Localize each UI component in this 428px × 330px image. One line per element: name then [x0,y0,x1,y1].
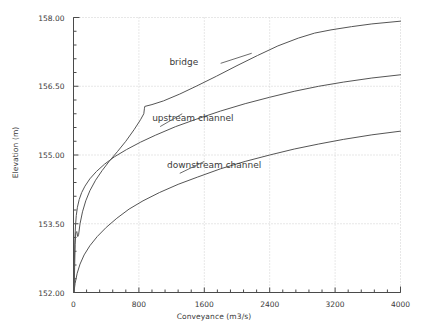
y-axis-title: Elevation (m) [11,108,20,198]
x-tick-label: 4000 [391,300,410,309]
data-series [74,21,401,291]
x-tick-label: 800 [132,300,147,309]
axis-lines [74,18,401,293]
x-tick-label: 0 [71,300,76,309]
grid-lines [74,18,401,293]
series-leader-line [221,53,252,63]
y-tick-label: 152.00 [38,289,64,298]
series-line-downstream-channel [74,131,401,291]
y-tick-label: 155.00 [38,151,64,160]
series-label-downstream-channel: downstream channel [167,160,261,170]
x-tick-label: 3200 [326,300,345,309]
x-tick-label: 2400 [260,300,279,309]
y-tick-label: 158.00 [38,14,64,23]
series-line-upstream-channel [74,75,401,292]
tick-marks [74,18,401,293]
y-tick-label: 153.50 [38,220,64,229]
x-tick-label: 1600 [195,300,214,309]
x-axis-title: Conveyance (m3/s) [0,312,428,321]
y-tick-label: 156.50 [38,82,64,91]
series-label-upstream-channel: upstream channel [152,113,233,123]
conveyance-elevation-chart: 08001600240032004000152.00153.50155.0015… [0,0,428,330]
chart-container: 08001600240032004000152.00153.50155.0015… [0,0,428,330]
series-label-bridge: bridge [169,57,198,67]
series-line-bridge [74,21,400,291]
